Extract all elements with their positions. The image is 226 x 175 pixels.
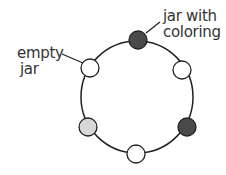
jar-upper-right (173, 61, 191, 79)
jar-bottom (127, 145, 145, 163)
jar-lower-right (178, 118, 196, 136)
jar-upper-left (81, 59, 99, 77)
empty-jar-leader-line (62, 54, 83, 63)
jar-lower-left (79, 118, 97, 136)
colored-jar-label-line2: coloring (163, 24, 221, 40)
empty-jar-label: empty jar (17, 45, 63, 77)
empty-jar-label-line1: empty (17, 45, 63, 61)
ring-circle (81, 41, 193, 153)
jar-ring-diagram: jar with coloring empty jar (0, 0, 226, 175)
colored-jar-leader-line (146, 22, 160, 33)
colored-jar-label: jar with coloring (163, 8, 221, 40)
jar-top (129, 31, 147, 49)
empty-jar-label-line2: jar (17, 61, 63, 77)
colored-jar-label-line1: jar with (163, 8, 221, 24)
